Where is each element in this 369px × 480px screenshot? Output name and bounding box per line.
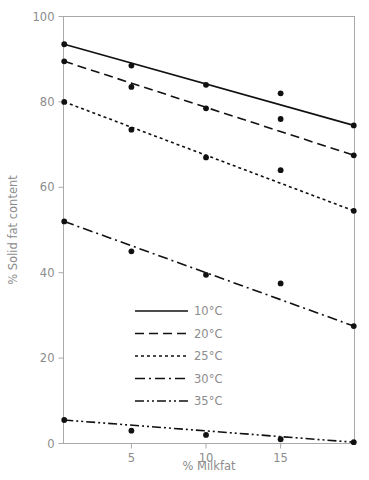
data-point (129, 428, 135, 434)
data-point-outlier (278, 167, 284, 173)
x-tick-label: 5 (128, 451, 135, 465)
data-point (61, 41, 67, 47)
y-tick-label: 100 (33, 10, 55, 24)
legend-label: 35°C (194, 394, 222, 408)
y-axis-title: % Solid fat content (6, 175, 20, 285)
y-tick-label: 40 (40, 266, 55, 280)
legend-label: 30°C (194, 372, 222, 386)
series-line (64, 61, 354, 155)
data-point (351, 122, 357, 128)
data-point (351, 152, 357, 158)
data-point (203, 105, 209, 111)
legend-label: 20°C (194, 327, 222, 341)
data-point (61, 417, 67, 423)
data-point (129, 127, 135, 133)
data-point (351, 208, 357, 214)
legend-label: 10°C (194, 304, 222, 318)
data-point (129, 84, 135, 90)
data-point (351, 323, 357, 329)
solid-fat-content-vs-milkfat-chart: 020406080100 51015 10°C20°C25°C30°C35°C … (0, 0, 369, 480)
legend-label: 25°C (194, 349, 222, 363)
data-point (278, 436, 284, 442)
data-point (61, 58, 67, 64)
data-point (61, 99, 67, 105)
series-line (64, 102, 354, 211)
data-point (203, 272, 209, 278)
series-line (64, 420, 354, 442)
series-10C (61, 41, 356, 128)
data-point-outlier (278, 280, 284, 286)
series-25C (61, 99, 356, 214)
data-point-outlier (278, 116, 284, 122)
series-35C (61, 417, 356, 445)
data-point (203, 432, 209, 438)
data-point (129, 63, 135, 69)
chart-figure: 020406080100 51015 10°C20°C25°C30°C35°C … (0, 0, 369, 480)
y-tick-label: 80 (40, 95, 55, 109)
data-point (129, 248, 135, 254)
data-point (203, 82, 209, 88)
data-point (61, 219, 67, 225)
x-tick-label: 15 (273, 451, 288, 465)
y-tick-label: 0 (47, 437, 54, 451)
data-point (203, 155, 209, 161)
y-axis: 020406080100 (33, 10, 64, 451)
series-line (64, 44, 354, 125)
legend: 10°C20°C25°C30°C35°C (135, 304, 222, 408)
series-20C (61, 58, 356, 158)
x-axis-title: % Milkfat (182, 459, 236, 473)
data-point-outlier (278, 90, 284, 96)
data-point (351, 439, 357, 445)
y-tick-label: 20 (40, 351, 55, 365)
y-tick-label: 60 (40, 180, 55, 194)
